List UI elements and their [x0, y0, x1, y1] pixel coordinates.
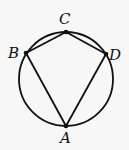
label-d: D — [108, 46, 121, 64]
point-b — [24, 51, 29, 56]
segment-ab — [26, 53, 66, 126]
geometry-diagram: A B C D — [0, 0, 129, 150]
label-a: A — [58, 129, 71, 147]
segment-da — [66, 54, 106, 126]
label-c: C — [59, 10, 71, 28]
label-b: B — [7, 44, 19, 62]
segment-bc — [26, 32, 66, 53]
vertex-points — [24, 30, 109, 129]
quadrilateral-sides — [26, 32, 106, 126]
circle — [19, 32, 113, 126]
segment-cd — [66, 32, 106, 54]
point-d — [104, 52, 109, 57]
point-a — [64, 124, 69, 129]
point-c — [64, 30, 69, 35]
